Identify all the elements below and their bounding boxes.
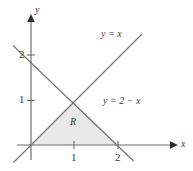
x-axis-label: x [181, 139, 185, 149]
y-tick-label-2: 2 [19, 49, 25, 60]
y-axis-label: y [35, 5, 39, 15]
region-label-R: R [70, 117, 76, 127]
y-axis-arrowhead [27, 14, 35, 22]
x-tick-label-2: 2 [115, 152, 121, 163]
line-label-y-equals-x: y = x [101, 29, 122, 39]
y-tick-label-1: 1 [19, 94, 25, 105]
math-figure: y x 2 1 1 2 y = x y = 2 − x R [0, 0, 193, 171]
x-tick-label-1: 1 [71, 152, 77, 163]
figure-canvas [0, 0, 193, 171]
line-label-y-equals-2-minus-x: y = 2 − x [103, 96, 140, 106]
x-axis-arrowhead [170, 141, 178, 149]
